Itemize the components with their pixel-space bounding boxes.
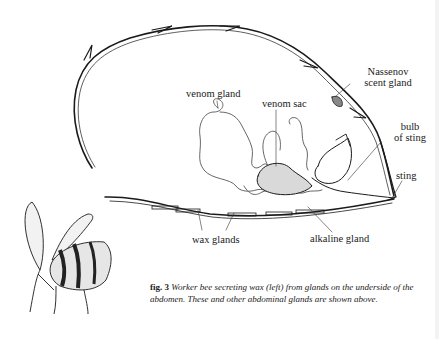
- label-bulb-line1: bulb: [378, 121, 439, 132]
- caption-text: Worker bee secreting wax (left) from gla…: [150, 282, 413, 304]
- label-nassenov-line2: scent gland: [348, 77, 428, 88]
- label-nassenov-scent-gland: Nassenov scent gland: [348, 66, 428, 88]
- label-venom-gland: venom gland: [186, 88, 241, 99]
- label-bulb-of-sting: bulb of sting: [378, 121, 439, 143]
- label-wax-glands: wax glands: [192, 234, 240, 245]
- label-nassenov-line1: Nassenov: [348, 66, 428, 77]
- diagram-stage: Nassenov scent gland venom gland venom s…: [0, 0, 439, 339]
- worker-bee-illustration: [0, 190, 130, 320]
- label-venom-sac: venom sac: [262, 98, 307, 109]
- label-sting: sting: [396, 170, 416, 181]
- label-bulb-line2: of sting: [378, 132, 439, 143]
- figure-number: fig. 3: [150, 282, 169, 292]
- label-alkaline-gland: alkaline gland: [310, 233, 369, 244]
- figure-caption: fig. 3 Worker bee secreting wax (left) f…: [150, 281, 426, 305]
- page-edge-shadow: [435, 0, 439, 339]
